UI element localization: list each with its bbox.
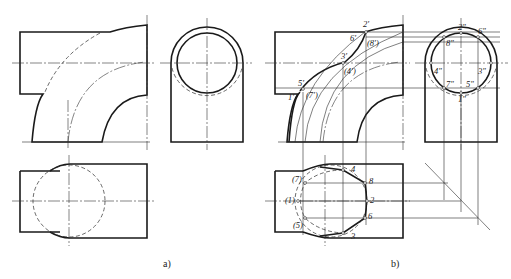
side-view-b: 2" 6" 8" 4" 3" 7" 5" 1"	[415, 18, 508, 225]
label-8pp: 8"	[446, 38, 454, 48]
label-4: 4	[351, 164, 356, 174]
label-5pp: 5"	[466, 79, 474, 89]
panel-a: a)	[12, 15, 252, 270]
miter-line	[425, 163, 490, 230]
label-2pp: 2"	[458, 22, 466, 32]
label-7: (7)	[292, 174, 302, 184]
panel-b: 2' 6' (8') 3' (4') 5' (7') 1'	[265, 15, 508, 270]
top-view-a	[12, 155, 155, 246]
label-3: 3	[350, 231, 355, 241]
label-8: 8	[369, 176, 374, 186]
label-1pp: 1"	[458, 94, 466, 104]
front-view-a	[12, 15, 155, 150]
caption-a: a)	[163, 258, 171, 270]
label-8p: (8')	[367, 38, 379, 48]
label-1: (1)	[285, 195, 295, 205]
label-3p: 3'	[340, 51, 347, 61]
top-view-b: 4 8 2 6 3 (7) (1) (5)	[265, 155, 478, 246]
label-4pp: 4"	[434, 66, 442, 76]
drawing-svg: a) 2' 6' (8')	[0, 0, 511, 279]
label-1p: 1'	[288, 92, 294, 102]
label-2: 2	[370, 195, 375, 205]
label-6: 6	[368, 211, 373, 221]
label-3pp: 3"	[477, 66, 486, 76]
technical-drawing: a) 2' 6' (8')	[0, 0, 511, 279]
label-5p: 5'	[298, 78, 304, 88]
label-4p: (4')	[344, 66, 356, 76]
label-2p: 2'	[363, 19, 369, 29]
label-7pp: 7"	[446, 79, 454, 89]
side-view-a	[160, 18, 252, 150]
label-5: (5)	[293, 220, 303, 230]
label-6p: 6'	[350, 33, 356, 43]
label-6pp: 6"	[478, 26, 486, 36]
caption-b: b)	[391, 258, 399, 270]
label-7p: (7')	[306, 90, 318, 100]
